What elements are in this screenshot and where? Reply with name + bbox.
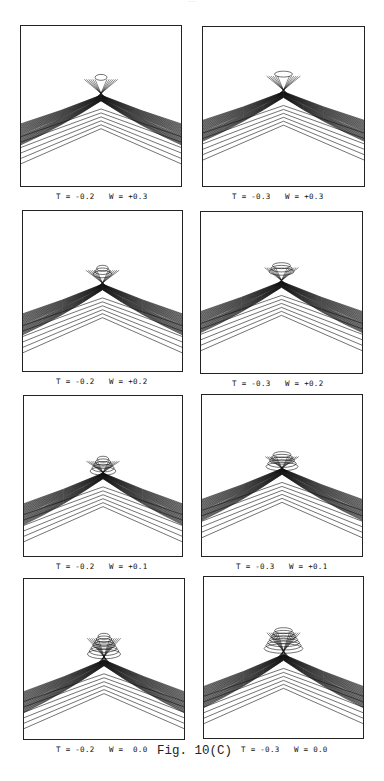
- panel-label: T = -0.3 W = +0.1: [236, 562, 328, 571]
- plot-panel-t-0.3-w-0.0: [203, 576, 364, 739]
- plot-panel-t-0.3-w-0.2: [200, 211, 363, 374]
- wavefront-plot: [23, 211, 182, 371]
- plot-panel-t-0.2-w-0.3: [20, 25, 182, 187]
- wavefront-plot: [24, 579, 184, 739]
- wavefront-plot: [24, 396, 182, 556]
- wavefront-plot: [21, 26, 181, 186]
- plot-panel-t-0.2-w-0.2: [22, 210, 183, 372]
- panel-label: T = -0.3 W = +0.2: [232, 379, 324, 388]
- panel-label: T = -0.2 W = +0.1: [56, 562, 148, 571]
- panel-label: T = -0.3 W = 0.0: [241, 745, 328, 754]
- page-number: ...: [180, 0, 204, 3]
- wavefront-plot: [203, 27, 364, 186]
- panel-label: T = -0.3 W = +0.3: [232, 192, 324, 201]
- panel-label: T = -0.2 W = +0.3: [56, 192, 148, 201]
- wavefront-plot: [201, 212, 362, 373]
- plot-panel-t-0.2-w-0.1: [23, 395, 183, 557]
- panel-label: T = -0.2 W = +0.2: [56, 377, 148, 386]
- plot-panel-t-0.3-w-0.3: [202, 26, 365, 187]
- plot-panel-t-0.2-w-0.0: [23, 578, 185, 740]
- wavefront-plot: [204, 577, 363, 738]
- panel-label: T = -0.2 W = 0.0: [56, 745, 148, 754]
- plot-panel-t-0.3-w-0.1: [201, 394, 363, 557]
- figure-caption: Fig. 10(C): [157, 744, 232, 758]
- wavefront-plot: [202, 395, 362, 556]
